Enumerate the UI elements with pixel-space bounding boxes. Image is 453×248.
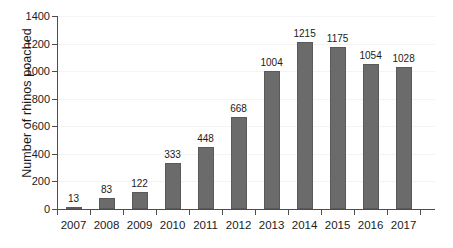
x-axis-tick [420, 210, 421, 215]
y-axis-tick-label: 1000 [6, 66, 50, 77]
bar-value-label: 668 [217, 104, 261, 114]
bar-value-label: 1004 [250, 58, 294, 68]
bar [396, 67, 412, 209]
bar [132, 192, 148, 209]
bar-value-label: 1028 [382, 54, 426, 64]
y-axis-tick [52, 44, 57, 45]
y-axis-tick-label: 1200 [6, 39, 50, 50]
x-axis-tick [288, 210, 289, 215]
bar [330, 47, 346, 209]
y-axis-line [57, 16, 58, 209]
x-axis-tick [90, 210, 91, 215]
x-axis-tick-label: 2017 [382, 219, 426, 231]
x-axis-tick [189, 210, 190, 215]
x-axis-line [57, 209, 435, 210]
x-axis-tick [123, 210, 124, 215]
gridline [57, 16, 435, 17]
y-axis-tick-label: 600 [6, 121, 50, 132]
bar [198, 147, 214, 209]
y-axis-tick [52, 154, 57, 155]
y-axis-tick [52, 181, 57, 182]
bar [231, 117, 247, 209]
x-axis-tick [387, 210, 388, 215]
bar [297, 42, 313, 209]
y-axis-tick [52, 16, 57, 17]
gridline [57, 44, 435, 45]
y-axis-tick [52, 71, 57, 72]
y-axis-tick [52, 99, 57, 100]
x-axis-tick [222, 210, 223, 215]
bar [99, 198, 115, 209]
x-axis-tick [321, 210, 322, 215]
bar [66, 207, 82, 209]
bar-chart: Number of rhinos poached 020040060080010… [0, 0, 453, 248]
x-axis-tick [354, 210, 355, 215]
y-axis-tick-label: 200 [6, 176, 50, 187]
bar [165, 163, 181, 209]
y-axis-tick [52, 126, 57, 127]
bar [264, 71, 280, 209]
x-axis-tick [156, 210, 157, 215]
bar-value-label: 333 [151, 150, 195, 160]
y-axis-tick-label: 1400 [6, 11, 50, 22]
y-axis-tick-label: 0 [6, 204, 50, 215]
x-axis-tick [255, 210, 256, 215]
bar-value-label: 13 [52, 194, 96, 204]
bar-value-label: 122 [118, 179, 162, 189]
x-axis-tick [57, 210, 58, 215]
y-axis-tick-label: 800 [6, 94, 50, 105]
bar-value-label: 1175 [316, 34, 360, 44]
bar-value-label: 448 [184, 134, 228, 144]
y-axis-tick-label: 400 [6, 149, 50, 160]
bar [363, 64, 379, 209]
